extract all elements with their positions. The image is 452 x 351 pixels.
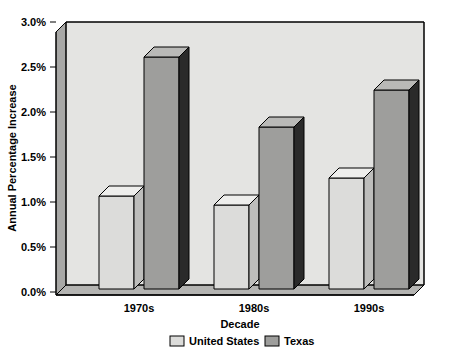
x-axis-title: Decade [220,318,259,330]
bar-us-1980s [214,195,259,289]
bar-texas-1990s [374,80,419,289]
y-tick-label: 2.5% [21,61,46,73]
chart-canvas: 3.0% 2.5% 2.0% 1.5% 1.0% 0.5% 0.0% Annua… [0,0,452,351]
bar-chart: 3.0% 2.5% 2.0% 1.5% 1.0% 0.5% 0.0% Annua… [0,0,452,351]
bar-front-face [259,127,294,289]
bar-side-face [364,168,374,289]
legend-label-united-states: United States [189,335,259,347]
y-tick-label: 0.0% [21,286,46,298]
y-tick-label: 2.0% [21,106,46,118]
y-tick-label: 1.0% [21,196,46,208]
legend-swatch-united-states [170,336,184,346]
x-axis-tick-labels: 1970s 1980s 1990s [124,302,385,314]
x-tick-label: 1990s [354,302,385,314]
bar-side-face [134,186,144,289]
bar-side-face [179,47,189,289]
bar-side-face [294,117,304,289]
bar-front-face [214,205,249,289]
bar-us-1970s [99,186,144,289]
bar-side-face [249,195,259,289]
y-axis-title: Annual Percentage Increase [6,84,18,231]
legend-swatch-texas [265,336,279,346]
y-tick-label: 3.0% [21,16,46,28]
y-tick-label: 0.5% [21,241,46,253]
bar-front-face [329,178,364,289]
bar-us-1990s [329,168,374,289]
bar-front-face [144,57,179,289]
bar-front-face [99,196,134,289]
bar-texas-1970s [144,47,189,289]
bar-front-face [374,90,409,289]
x-tick-label: 1980s [239,302,270,314]
plot-left-wall [56,22,66,295]
y-tick-label: 1.5% [21,151,46,163]
legend-label-texas: Texas [284,335,314,347]
bar-texas-1980s [259,117,304,289]
bar-side-face [409,80,419,289]
x-tick-label: 1970s [124,302,155,314]
legend: United States Texas [170,335,314,347]
y-axis-tick-labels: 3.0% 2.5% 2.0% 1.5% 1.0% 0.5% 0.0% [21,16,46,298]
y-axis-ticks [50,22,56,292]
